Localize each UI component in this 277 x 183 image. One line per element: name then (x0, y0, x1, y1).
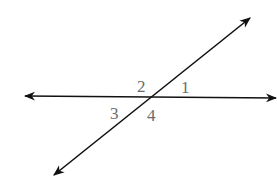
intersecting-lines-diagram: 1 2 3 4 (0, 0, 277, 183)
diagram-canvas: 1 2 3 4 (0, 0, 277, 183)
angle-label-4: 4 (147, 106, 156, 125)
angle-label-3: 3 (110, 104, 119, 123)
angle-label-2: 2 (137, 77, 146, 96)
angle-label-1: 1 (181, 78, 190, 97)
